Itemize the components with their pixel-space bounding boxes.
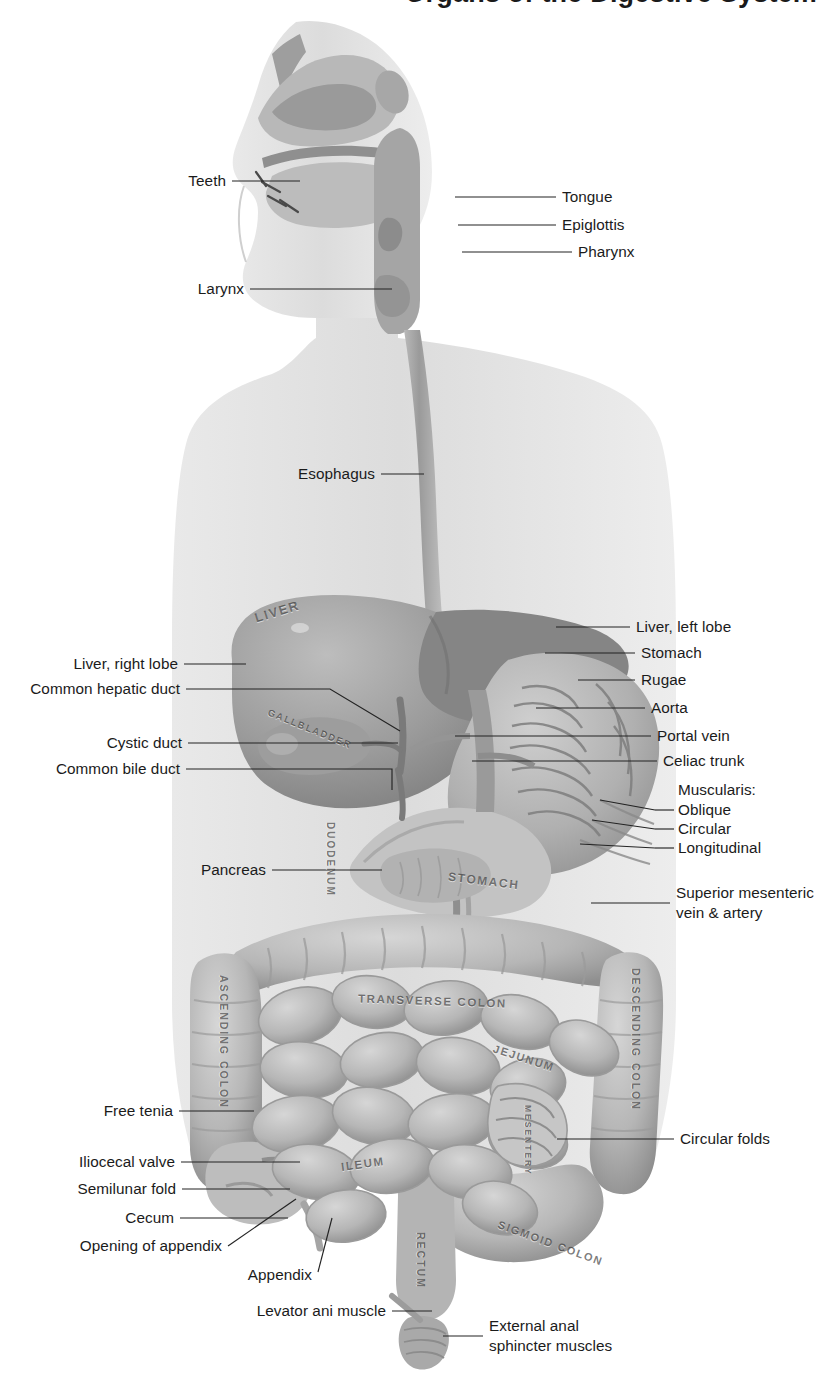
label-external-anal-sphincter: External analsphincter muscles [489,1316,679,1355]
label-longitudinal: Longitudinal [678,838,761,858]
label-tongue: Tongue [562,187,613,207]
label-iliocecal-valve: Iliocecal valve [79,1152,175,1172]
label-celiac-trunk: Celiac trunk [663,751,744,771]
label-liver-left-lobe: Liver, left lobe [636,617,731,637]
label-aorta: Aorta [651,698,688,718]
embossed-duodenum: DUODENUM [325,822,336,897]
label-superior-mesenteric-line-1: Superior mesenteric [676,883,835,903]
label-circular-folds: Circular folds [680,1129,770,1149]
label-opening-of-appendix: Opening of appendix [80,1236,222,1256]
embossed-ascending-colon: ASCENDING COLON [218,975,230,1109]
label-appendix: Appendix [248,1265,312,1285]
label-stomach: Stomach [641,643,702,663]
label-oblique: Oblique [678,800,731,820]
label-pancreas: Pancreas [201,860,266,880]
label-circular: Circular [678,819,731,839]
label-esophagus: Esophagus [298,464,375,484]
label-rugae: Rugae [641,670,686,690]
label-free-tenia: Free tenia [104,1101,173,1121]
label-portal-vein: Portal vein [657,726,730,746]
label-cystic-duct: Cystic duct [107,733,182,753]
label-superior-mesenteric: Superior mesentericvein & artery [676,883,835,922]
label-superior-mesenteric-line-2: vein & artery [676,903,835,923]
label-common-hepatic-duct: Common hepatic duct [30,679,180,699]
label-larynx: Larynx [198,279,244,299]
label-epiglottis: Epiglottis [562,215,625,235]
label-cecum: Cecum [125,1208,174,1228]
label-pharynx: Pharynx [578,242,634,262]
label-muscularis-heading: Muscularis: [678,780,756,800]
embossed-rectum: RECTUM [415,1232,427,1289]
label-semilunar-fold: Semilunar fold [78,1179,176,1199]
label-external-anal-sphincter-line-2: sphincter muscles [489,1336,679,1356]
digestive-system-figure: Organs of the Digestive System [0,0,835,1389]
label-levator-ani-muscle: Levator ani muscle [257,1301,386,1321]
label-external-anal-sphincter-line-1: External anal [489,1316,679,1336]
label-liver-right-lobe: Liver, right lobe [73,654,178,674]
embossed-mesentery: MESENTERY [523,1105,533,1176]
label-common-bile-duct: Common bile duct [56,759,180,779]
label-teeth: Teeth [188,171,226,191]
embossed-descending-colon: DESCENDING COLON [630,968,642,1111]
